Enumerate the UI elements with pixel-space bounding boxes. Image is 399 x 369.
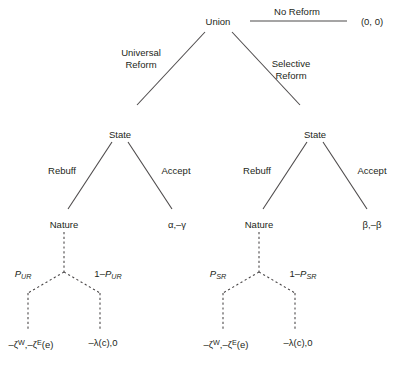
node-nature-right[interactable]: Nature <box>245 219 274 231</box>
figure-caption <box>0 360 399 369</box>
p-ur-subscript: UR <box>21 272 31 281</box>
payoff-terminal-sr-accept: –λ(c),0 <box>283 337 312 349</box>
probability-label-p-ur: PUR <box>15 268 32 282</box>
node-union[interactable]: Union <box>206 16 231 28</box>
chance-branch-left-a <box>28 272 64 293</box>
game-tree-canvas <box>0 0 399 369</box>
probability-label-p-sr: PSR <box>210 268 226 282</box>
edge-label-rebuff-left: Rebuff <box>48 165 76 177</box>
payoff-no-reform: (0, 0) <box>361 16 383 28</box>
zeta-e-arg-left: (e) <box>42 339 54 350</box>
edge-label-rebuff-right: Rebuff <box>243 165 271 177</box>
one-minus-prefix-ur: 1– <box>94 268 105 279</box>
zeta-e-term-a: ,–ζ <box>25 339 37 350</box>
node-state-right[interactable]: State <box>304 129 326 141</box>
node-state-left[interactable]: State <box>109 129 131 141</box>
p-ur2-subscript: UR <box>111 272 121 281</box>
payoff-accept-left: α,–γ <box>168 219 186 231</box>
probability-label-one-minus-p-sr: 1–PSR <box>290 268 317 282</box>
payoff-accept-right: β,–β <box>363 219 382 231</box>
edge-label-universal-reform: Universal Reform <box>121 47 161 71</box>
payoff-terminal-ur-rebuff: –ζW,–ζE(e) <box>9 337 54 351</box>
edge-label-selective-reform: Selective Reform <box>272 58 311 82</box>
p-sr-subscript: SR <box>216 272 226 281</box>
probability-label-one-minus-p-ur: 1–PUR <box>94 268 121 282</box>
chance-branch-right-a <box>223 272 259 293</box>
payoff-terminal-ur-accept: –λ(c),0 <box>88 337 117 349</box>
edge-label-accept-right: Accept <box>357 165 386 177</box>
zeta-e-arg-right: (e) <box>237 339 249 350</box>
p-sr2-subscript: SR <box>306 272 316 281</box>
one-minus-prefix-sr: 1– <box>290 268 301 279</box>
edge-label-accept-left: Accept <box>161 165 190 177</box>
zeta-e-term-b: ,–ζ <box>220 339 232 350</box>
payoff-terminal-sr-rebuff: –ζW,–ζE(e) <box>204 337 249 351</box>
node-nature-left[interactable]: Nature <box>50 219 79 231</box>
edge-label-no-reform: No Reform <box>274 6 320 18</box>
